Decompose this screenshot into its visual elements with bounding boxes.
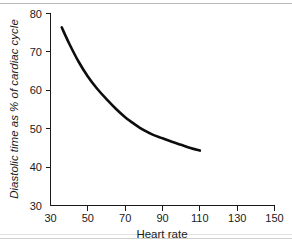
x-axis-tick-labels: 30 50 70 90 110 130 150	[44, 212, 283, 224]
x-axis-ticks	[88, 206, 275, 212]
y-tick-label-30: 30	[30, 200, 42, 212]
x-tick-label-90: 90	[156, 212, 168, 224]
y-axis-ticks	[46, 14, 51, 168]
x-tick-label-130: 130	[228, 212, 246, 224]
x-tick-label-70: 70	[119, 212, 131, 224]
data-series-diastolic-time	[62, 27, 200, 150]
y-tick-label-70: 70	[30, 46, 42, 58]
x-tick-label-50: 50	[82, 212, 94, 224]
y-tick-label-50: 50	[30, 123, 42, 135]
chart-figure: 80 70 60 50 40 30 30 50 70 90 110 130 15…	[0, 0, 292, 243]
x-tick-label-150: 150	[265, 212, 283, 224]
x-tick-label-110: 110	[191, 212, 209, 224]
y-tick-label-40: 40	[30, 161, 42, 173]
x-tick-label-30: 30	[44, 212, 56, 224]
x-axis-title: Heart rate	[136, 228, 187, 240]
y-tick-label-80: 80	[30, 8, 42, 20]
y-axis-tick-labels: 80 70 60 50 40 30	[30, 8, 42, 212]
y-tick-label-60: 60	[30, 84, 42, 96]
y-axis-title: Diastolic time as % of cardiac cycle	[8, 19, 20, 199]
line-chart-plot: 80 70 60 50 40 30 30 50 70 90 110 130 15…	[0, 0, 292, 243]
